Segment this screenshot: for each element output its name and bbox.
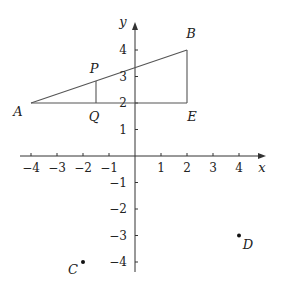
x-axis-label: x <box>258 160 266 175</box>
y-tick-label: −3 <box>109 229 127 243</box>
point-D-dot <box>237 234 241 238</box>
x-tick-label: 2 <box>183 161 191 175</box>
y-tick-label: 2 <box>119 96 127 110</box>
y-tick-label: −4 <box>109 255 127 269</box>
point-C-dot <box>81 260 85 264</box>
point-label-C: C <box>68 262 78 277</box>
x-tick-label: −1 <box>100 161 118 175</box>
point-label-B: B <box>185 26 196 41</box>
coordinate-plane-figure: −4−3−2−112344321−1−2−3−4xyABEPQCD <box>0 0 282 293</box>
x-tick-label: −4 <box>22 161 40 175</box>
y-tick-label: 1 <box>119 123 127 137</box>
x-tick-label: 4 <box>235 161 243 175</box>
x-tick-label: −2 <box>74 161 92 175</box>
y-tick-label: −2 <box>109 202 127 216</box>
plot-canvas: −4−3−2−112344321−1−2−3−4xyABEPQCD <box>0 0 282 293</box>
x-tick-label: −3 <box>48 161 66 175</box>
point-label-A: A <box>12 104 22 119</box>
y-tick-label: −1 <box>109 176 127 190</box>
point-label-D: D <box>242 237 254 252</box>
x-tick-label: 1 <box>157 161 165 175</box>
point-label-P: P <box>89 61 99 76</box>
axes <box>20 22 266 272</box>
y-axis-arrow-icon <box>132 22 138 30</box>
labels: −4−3−2−112344321−1−2−3−4xyABEPQCD <box>12 14 266 277</box>
segment-AB <box>31 50 187 103</box>
y-tick-label: 4 <box>119 43 127 57</box>
y-tick-label: 3 <box>119 70 127 84</box>
x-axis-arrow-icon <box>258 153 266 159</box>
shapes <box>31 50 241 264</box>
point-label-Q: Q <box>89 109 100 124</box>
point-label-E: E <box>186 109 197 124</box>
y-axis-label: y <box>118 14 127 29</box>
x-tick-label: 3 <box>209 161 217 175</box>
